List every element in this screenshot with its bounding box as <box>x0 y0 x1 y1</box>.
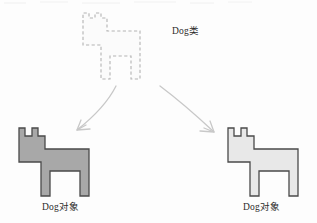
diagram-canvas: Dog类 Dog对象 Dog对象 <box>0 0 317 223</box>
scan-noise <box>4 2 252 3</box>
solid-dog-right <box>228 128 298 196</box>
arrow-to-left-object <box>77 86 116 130</box>
solid-dog-left <box>19 128 89 196</box>
class-label: Dog类 <box>172 23 199 37</box>
object-label-left: Dog对象 <box>42 199 79 213</box>
class-object-diagram <box>0 0 317 223</box>
arrow-to-right-object <box>160 86 214 132</box>
object-label-right: Dog对象 <box>243 199 280 213</box>
dashed-dog-outline <box>83 13 140 79</box>
